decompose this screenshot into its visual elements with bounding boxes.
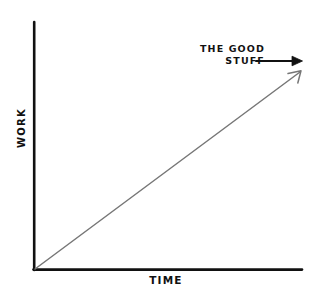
trend-line [35,72,300,269]
chart-canvas [0,0,317,298]
annotation-text: THE GOOD STUFF [200,44,265,66]
right-arrow-icon [292,56,303,66]
x-axis-label: TIME [149,275,183,286]
sketch-figure: WORK TIME THE GOOD STUFF [0,0,317,298]
y-axis-label: WORK [17,108,28,148]
annotation-line-2: STUFF [200,56,265,66]
annotation-line-1: THE GOOD [200,43,265,54]
